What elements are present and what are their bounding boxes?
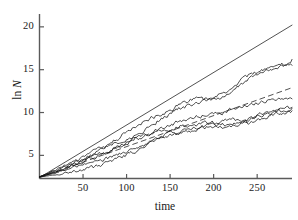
y-axis-tick-label: 20 — [8, 20, 34, 31]
x-axis-tick-label: 150 — [150, 182, 190, 193]
y-axis-tick-label: 5 — [8, 148, 34, 159]
y-axis-label: ln N — [11, 67, 23, 113]
y-axis-label-prefix: ln — [11, 88, 23, 100]
x-axis-label-text: time — [123, 200, 175, 212]
data-series-group — [40, 25, 293, 178]
y-axis-label-variable: N — [11, 80, 23, 88]
axes-group — [40, 14, 293, 179]
series-trajectory-1 — [40, 59, 293, 176]
series-trajectory-2 — [40, 64, 293, 177]
x-axis-tick-label: 250 — [237, 182, 277, 193]
x-axis-tick-label: 50 — [63, 182, 103, 193]
x-axis-tick-label: 200 — [194, 182, 234, 193]
chart-figure: 5101520 50100150200250 ln N time — [0, 0, 298, 220]
x-axis-label: time — [0, 200, 298, 212]
x-axis-tick-label: 100 — [107, 182, 147, 193]
